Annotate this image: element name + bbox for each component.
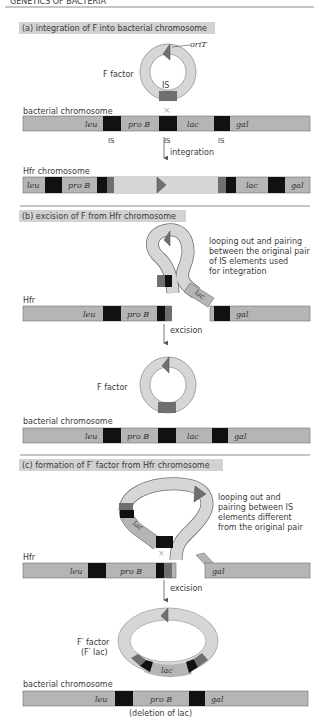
gene-gal: gal bbox=[236, 310, 249, 319]
panel-b: (b) excision of F from Hfr chromosome la… bbox=[19, 210, 310, 443]
hfr-chromosome bbox=[23, 563, 310, 578]
fprime-lac-label: (F′ lac) bbox=[81, 648, 108, 657]
is-label: IS bbox=[164, 137, 171, 145]
gene-prob: pro B bbox=[120, 567, 142, 576]
f-factor-plasmid bbox=[140, 44, 196, 101]
excision-label: excision bbox=[170, 584, 202, 593]
is-label-f: IS bbox=[162, 81, 169, 90]
panel-c: (c) formation of F′ factor from Hfr chro… bbox=[19, 459, 310, 718]
orit-label: oriT bbox=[190, 40, 207, 49]
f-factor-label: F factor bbox=[97, 383, 128, 392]
is-element bbox=[103, 116, 121, 131]
gene-leu: leu bbox=[95, 695, 107, 704]
panel-a: (a) integration of F into bacterial chro… bbox=[19, 22, 310, 193]
gene-prob: pro B bbox=[68, 181, 90, 190]
gene-leu: leu bbox=[85, 120, 97, 129]
annotation-line: looping out and bbox=[218, 493, 281, 502]
hfr-chromosome bbox=[23, 306, 310, 321]
chromosome-label: bacterial chromosome bbox=[23, 417, 113, 426]
deletion-label: (deletion of lac) bbox=[129, 709, 192, 718]
f-factor-label: F factor bbox=[103, 70, 134, 79]
gene-leu: leu bbox=[27, 181, 39, 190]
chromosome-label: bacterial chromosome bbox=[23, 680, 113, 689]
gene-prob: pro B bbox=[127, 310, 149, 319]
gene-gal: gal bbox=[212, 567, 225, 576]
gene-leu: leu bbox=[70, 567, 82, 576]
gene-prob: pro B bbox=[127, 432, 149, 441]
annotation-line: looping out and pairing bbox=[209, 237, 302, 246]
gene-leu: leu bbox=[83, 310, 95, 319]
is-element-f bbox=[159, 91, 177, 101]
bacterial-chromosome bbox=[23, 428, 310, 443]
is-element bbox=[159, 116, 177, 131]
is-element bbox=[214, 116, 230, 131]
gene-lac: lac bbox=[246, 181, 258, 190]
diagram-canvas: GENETICS OF BACTERIA (a) integration of … bbox=[0, 0, 319, 726]
annotation-line: for integration bbox=[209, 267, 267, 276]
gene-lac: lac bbox=[187, 432, 199, 441]
crossover-icon: × bbox=[158, 549, 165, 558]
annotation-line: between the original pair bbox=[209, 247, 310, 256]
excision-label: excision bbox=[170, 326, 202, 335]
panel-b-title: (b) excision of F from Hfr chromosome bbox=[22, 212, 176, 221]
gene-prob: pro B bbox=[150, 695, 172, 704]
hfr-chromosome-label: Hfr chromosome bbox=[23, 167, 90, 176]
panel-c-title: (c) formation of F′ factor from Hfr chro… bbox=[22, 461, 210, 470]
hfr-chromosome bbox=[23, 177, 310, 193]
crossover-icon: × bbox=[163, 105, 171, 115]
fprime-factor-label: F′ factor bbox=[77, 638, 110, 647]
f-factor-plasmid bbox=[140, 357, 196, 413]
page-header-text: GENETICS OF BACTERIA bbox=[10, 0, 106, 6]
panel-a-title: (a) integration of F into bacterial chro… bbox=[22, 24, 207, 33]
gene-leu: leu bbox=[85, 432, 97, 441]
gene-prob: pro B bbox=[128, 120, 150, 129]
is-label: IS bbox=[218, 137, 225, 145]
hfr-label: Hfr bbox=[23, 553, 36, 562]
annotation-line: of IS elements used bbox=[209, 257, 288, 266]
fprime-gene-lac: lac bbox=[161, 666, 173, 675]
integration-label: integration bbox=[170, 148, 214, 157]
gene-gal: gal bbox=[211, 695, 224, 704]
bacterial-chromosome bbox=[23, 116, 310, 131]
hfr-label: Hfr bbox=[23, 296, 36, 305]
gene-gal: gal bbox=[236, 120, 249, 129]
annotation-line: pairing between IS bbox=[218, 503, 293, 512]
annotation-line: from the original pair bbox=[218, 523, 303, 532]
gene-gal: gal bbox=[234, 432, 247, 441]
annotation-line: elements different bbox=[218, 513, 292, 522]
gene-gal: gal bbox=[291, 181, 304, 190]
gene-lac: lac bbox=[187, 120, 199, 129]
is-label: IS bbox=[108, 137, 115, 145]
chromosome-label: bacterial chromosome bbox=[23, 107, 113, 116]
